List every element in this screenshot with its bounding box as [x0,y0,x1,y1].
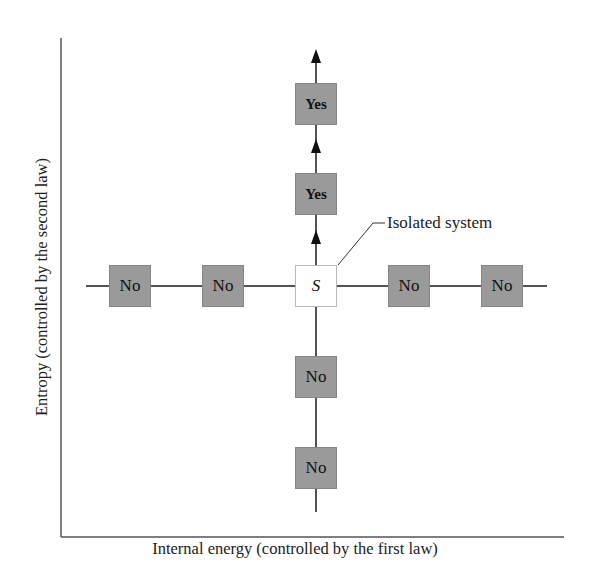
isolated-system-callout: Isolated system [387,213,492,233]
node-down-2: No [295,447,337,489]
arrow-up-icon [311,139,321,153]
node-up-2: Yes [295,83,337,125]
node-right-2: No [481,265,523,307]
x-axis-label: Internal energy (controlled by the first… [0,539,590,559]
node-up-1: Yes [295,173,337,215]
callout-leader [338,223,385,265]
arrow-up-icon [311,230,321,244]
node-left-1: No [202,265,244,307]
node-down-1: No [295,356,337,398]
isolated-system-node: S [295,265,337,307]
arrow-up-icon [311,49,321,63]
node-right-1: No [388,265,430,307]
node-left-2: No [109,265,151,307]
y-axis-label: Entropy (controlled by the second law) [32,158,52,416]
